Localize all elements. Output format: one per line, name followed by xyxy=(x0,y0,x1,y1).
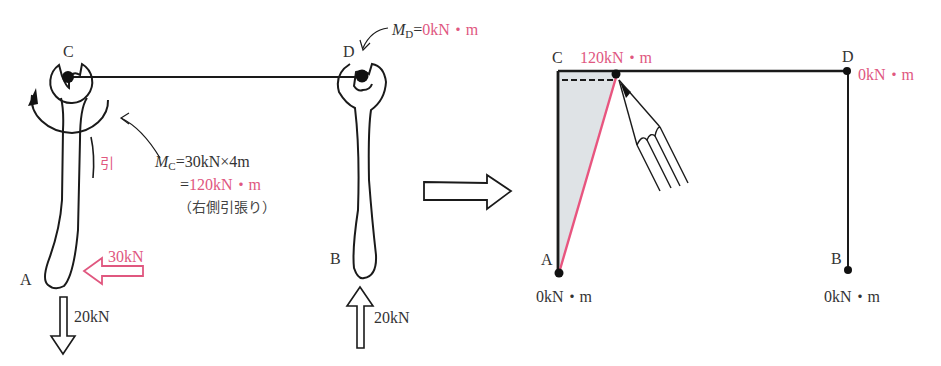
arrow-right-icon xyxy=(424,175,511,209)
right-frame-moment-diagram: C 120kN・m D 0kN・m A 0kN・m B 0kN・m xyxy=(536,48,915,305)
mc-equation-line1: MC=30kN×4m xyxy=(154,153,250,172)
joint-a-right xyxy=(555,269,564,278)
joint-b-right xyxy=(844,266,852,274)
rotation-arrowhead-icon xyxy=(28,88,38,106)
node-label-a: A xyxy=(20,271,32,288)
pencil-icon xyxy=(619,80,688,191)
moment-diagram-figure: 引 C D A B MC=30kN×4m =120kN・m （右側引張り） 30… xyxy=(0,0,941,366)
moment-point-c xyxy=(612,70,621,79)
node-label-c: C xyxy=(63,43,74,60)
node-label-b-right: B xyxy=(831,250,842,267)
node-label-a-right: A xyxy=(541,251,553,268)
node-label-c-right: C xyxy=(552,49,563,66)
wrench-right-icon xyxy=(338,64,386,278)
joint-d-right xyxy=(843,67,851,75)
mc-subscript: C xyxy=(168,160,175,172)
mc-line2-equals: = xyxy=(180,176,189,193)
node-label-b: B xyxy=(330,250,341,267)
rotation-arrow-icon xyxy=(32,95,108,133)
moment-value-b: 0kN・m xyxy=(824,288,881,305)
mc-leader xyxy=(121,118,160,158)
tension-bracket xyxy=(91,137,94,178)
joint-d-left xyxy=(356,70,369,83)
moment-value-a: 0kN・m xyxy=(536,288,593,305)
md-subscript: D xyxy=(405,28,413,40)
mc-line2-value: 120kN・m xyxy=(189,176,262,193)
moment-value-d: 0kN・m xyxy=(858,66,915,83)
mc-line1-rest: =30kN×4m xyxy=(176,153,251,170)
node-label-d-right: D xyxy=(842,48,854,65)
mc-equation-note: （右側引張り） xyxy=(178,199,276,215)
mc-leader-arrowhead-icon xyxy=(121,113,129,124)
moment-value-c: 120kN・m xyxy=(580,49,653,66)
mc-equation-line2: =120kN・m xyxy=(180,176,262,193)
tension-mark: 引 xyxy=(100,155,114,171)
wrench-left-icon xyxy=(45,64,92,288)
md-leader xyxy=(363,28,388,48)
left-frame-wrench-analogy: 引 C D A B MC=30kN×4m =120kN・m （右側引張り） 30… xyxy=(20,21,479,354)
force-arrow-20kn-up-icon xyxy=(347,287,373,348)
force-label-20kn-a: 20kN xyxy=(74,308,110,325)
md-value: 0kN・m xyxy=(422,21,479,38)
force-label-20kn-b: 20kN xyxy=(374,309,410,326)
node-label-d: D xyxy=(343,43,355,60)
force-arrow-20kn-down-icon xyxy=(51,297,75,354)
force-label-30kn: 30kN xyxy=(108,248,144,265)
joint-c-left xyxy=(62,71,74,83)
md-equals: = xyxy=(413,21,422,38)
md-equation: MD=0kN・m xyxy=(391,21,479,40)
